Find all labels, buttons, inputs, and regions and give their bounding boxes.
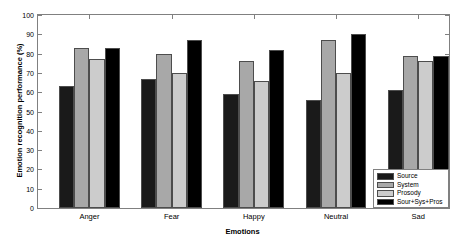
y-tick-mark (38, 131, 42, 132)
y-tick-label: 70 (26, 69, 34, 76)
legend-swatch (377, 173, 394, 180)
bar-fear-system (156, 54, 171, 208)
legend-swatch (377, 190, 394, 197)
y-tick-label: 30 (26, 147, 34, 154)
bar-fear-sour-sys-pros (187, 40, 202, 208)
y-tick-label: 20 (26, 166, 34, 173)
y-tick-mark (38, 208, 42, 209)
bar-fear-source (141, 79, 156, 208)
bar-happy-sour-sys-pros (269, 50, 284, 208)
bar-chart-figure: Emotion recognition performance (%) 0102… (0, 0, 459, 242)
legend-swatch (377, 182, 394, 189)
x-tick-mark-top (418, 15, 419, 19)
y-tick-mark (38, 34, 42, 35)
y-tick-mark-right (445, 15, 449, 16)
x-tick-mark-top (89, 15, 90, 19)
legend-label: System (397, 181, 419, 190)
y-tick-label: 60 (26, 89, 34, 96)
y-tick-mark-right (445, 208, 449, 209)
bar-neutral-prosody (336, 73, 351, 208)
x-tick-mark-top (172, 15, 173, 19)
bar-neutral-system (321, 40, 336, 208)
bar-anger-sour-sys-pros (105, 48, 120, 208)
y-tick-mark-right (445, 54, 449, 55)
x-tick-mark-top (336, 15, 337, 19)
legend-item-source: Source (377, 172, 445, 181)
x-axis-label: Emotions (37, 227, 448, 236)
x-tick-label-anger: Anger (79, 212, 99, 221)
x-tick-label-neutral: Neutral (324, 212, 348, 221)
legend-label: Prosody (397, 189, 421, 198)
y-tick-mark (38, 54, 42, 55)
y-tick-label: 50 (26, 108, 34, 115)
y-tick-mark (38, 169, 42, 170)
y-tick-label: 0 (30, 205, 34, 212)
legend-label: Sour+Sys+Pros (397, 198, 443, 207)
y-tick-mark (38, 15, 42, 16)
bar-anger-source (59, 86, 74, 208)
y-tick-label: 100 (22, 12, 34, 19)
bar-happy-system (239, 61, 254, 208)
y-tick-mark (38, 189, 42, 190)
x-tick-label-happy: Happy (243, 212, 265, 221)
bar-anger-system (74, 48, 89, 208)
y-tick-mark-right (445, 34, 449, 35)
y-axis-label: Emotion recognition performance (%) (13, 14, 26, 207)
plot-area: 0102030405060708090100 AngerFearHappyNeu… (37, 14, 450, 209)
x-tick-mark-top (254, 15, 255, 19)
y-tick-label: 40 (26, 127, 34, 134)
bar-happy-source (223, 94, 238, 208)
y-axis-label-container: Emotion recognition performance (%) (0, 0, 20, 242)
y-tick-label: 90 (26, 31, 34, 38)
y-tick-mark (38, 73, 42, 74)
legend-label: Source (397, 172, 418, 181)
x-tick-label-sad: Sad (412, 212, 425, 221)
y-tick-label: 10 (26, 185, 34, 192)
bar-anger-prosody (89, 59, 104, 208)
chart-legend: SourceSystemProsodySour+Sys+Pros (373, 169, 449, 208)
legend-item-sour-sys-pros: Sour+Sys+Pros (377, 198, 445, 207)
y-tick-mark (38, 112, 42, 113)
y-tick-mark (38, 150, 42, 151)
x-tick-label-fear: Fear (164, 212, 179, 221)
legend-swatch (377, 199, 394, 206)
legend-item-system: System (377, 181, 445, 190)
y-tick-mark (38, 92, 42, 93)
bar-fear-prosody (172, 73, 187, 208)
bar-happy-prosody (254, 81, 269, 208)
bar-neutral-source (306, 100, 321, 208)
legend-item-prosody: Prosody (377, 189, 445, 198)
bar-neutral-sour-sys-pros (351, 34, 366, 208)
y-tick-label: 80 (26, 50, 34, 57)
